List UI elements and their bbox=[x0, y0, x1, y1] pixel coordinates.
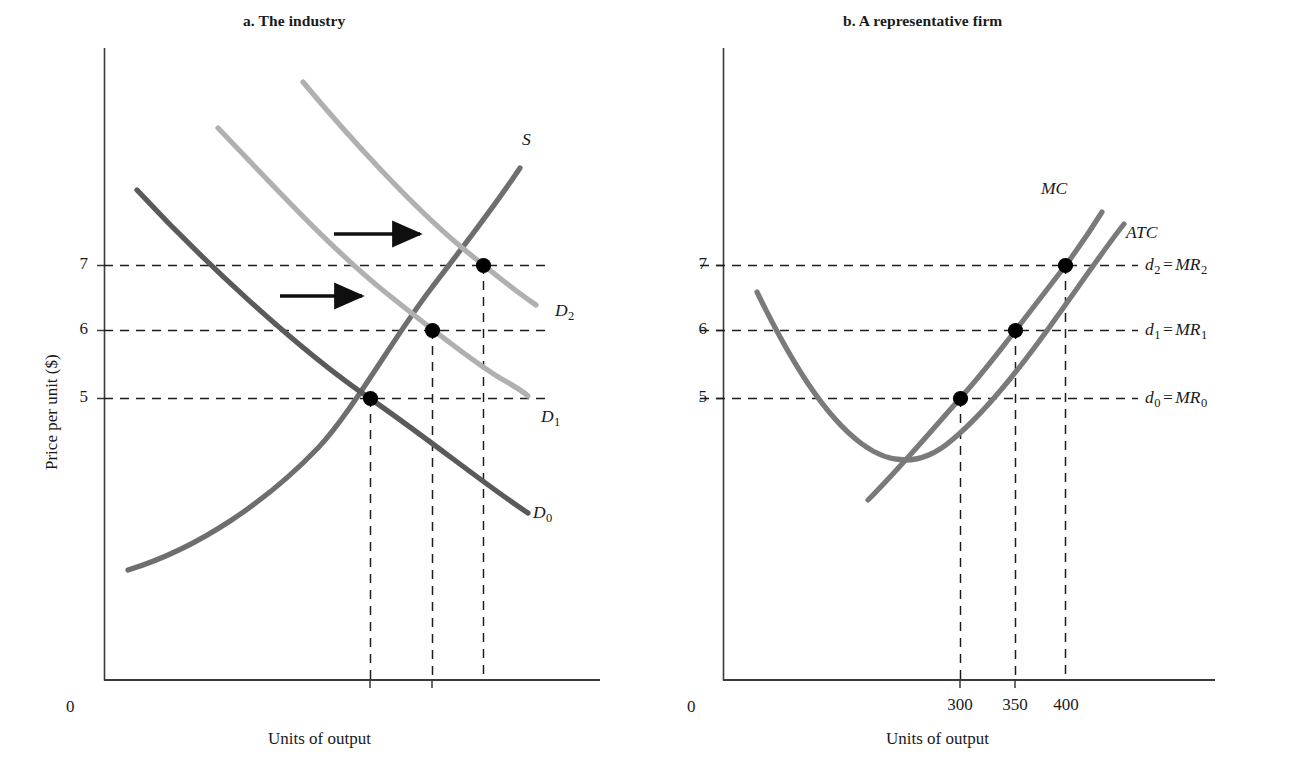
x-axis-label-industry: Units of output bbox=[268, 729, 371, 749]
curve-label-D0: D0 bbox=[533, 502, 552, 526]
output-point-400 bbox=[1058, 258, 1073, 273]
origin-label-industry: 0 bbox=[66, 697, 75, 717]
x-tick-350: 350 bbox=[990, 695, 1040, 715]
x-tick-400: 400 bbox=[1041, 695, 1091, 715]
demand-label-d0-mr0: d0=MR0 bbox=[1145, 387, 1207, 411]
demand-label-d1-mr1: d1=MR1 bbox=[1145, 319, 1207, 343]
curve-label-D1: D1 bbox=[541, 406, 560, 430]
y-tick-6-firm: 6 bbox=[681, 319, 707, 339]
y-tick-6-industry: 6 bbox=[62, 319, 88, 339]
output-point-300 bbox=[953, 391, 968, 406]
curve-label-S: S bbox=[522, 129, 531, 153]
y-tick-5-firm: 5 bbox=[681, 387, 707, 407]
panel-a-equilibrium-points bbox=[363, 258, 491, 406]
y-tick-5-industry: 5 bbox=[62, 387, 88, 407]
supply-curve-S bbox=[128, 168, 520, 570]
panel-title-firm: b. A representative firm bbox=[843, 12, 1002, 30]
demand-label-d2-mr2: d2=MR2 bbox=[1145, 254, 1207, 278]
x-tick-300: 300 bbox=[935, 695, 985, 715]
curve-label-MC: MC bbox=[1041, 178, 1067, 199]
origin-label-firm: 0 bbox=[687, 697, 696, 717]
y-axis-label-industry: Price per unit ($) bbox=[42, 354, 62, 470]
equilibrium-point-E0 bbox=[363, 391, 378, 406]
curve-label-D2: D2 bbox=[555, 300, 574, 324]
output-point-350 bbox=[1008, 323, 1023, 338]
equilibrium-point-E2 bbox=[476, 258, 491, 273]
y-tick-7-firm: 7 bbox=[681, 254, 707, 274]
marginal-cost-curve-MC bbox=[868, 212, 1102, 500]
figure-canvas: a. The industry b. A representative firm… bbox=[0, 0, 1308, 776]
y-tick-7-industry: 7 bbox=[62, 254, 88, 274]
panel-b-guides bbox=[700, 265, 1138, 680]
panel-a-guides bbox=[104, 265, 545, 680]
chart-svg bbox=[0, 0, 1308, 776]
panel-title-industry: a. The industry bbox=[243, 12, 345, 30]
x-axis-label-firm: Units of output bbox=[886, 729, 989, 749]
panel-b-axes bbox=[716, 48, 1215, 688]
curve-label-ATC: ATC bbox=[1126, 222, 1157, 243]
equilibrium-point-E1 bbox=[425, 323, 440, 338]
